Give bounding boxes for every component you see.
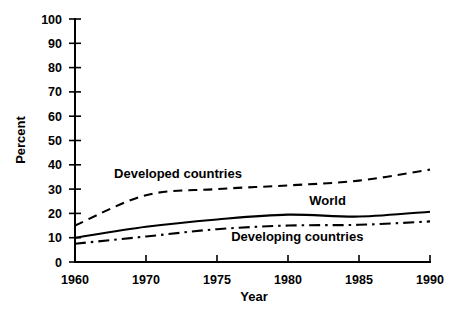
y-axis-title: Percent bbox=[13, 115, 28, 163]
x-tick-label-1960: 1960 bbox=[61, 273, 89, 287]
y-tick-label-0: 0 bbox=[55, 256, 62, 270]
y-tick-label-30: 30 bbox=[48, 183, 62, 197]
y-tick-label-60: 60 bbox=[48, 110, 62, 124]
x-tick-label-1975: 1975 bbox=[203, 273, 231, 287]
y-tick-label-40: 40 bbox=[48, 158, 62, 172]
annotation-world: World bbox=[309, 193, 346, 208]
chart-canvas: 0102030405060708090100 19601970197519801… bbox=[0, 0, 454, 328]
y-tick-label-50: 50 bbox=[48, 134, 62, 148]
x-tick-label-1985: 1985 bbox=[345, 273, 373, 287]
x-axis-title: Year bbox=[240, 289, 267, 304]
y-tick-label-20: 20 bbox=[48, 207, 62, 221]
annotation-developing-countries: Developing countries bbox=[231, 229, 363, 244]
x-tick-label-1970: 1970 bbox=[132, 273, 160, 287]
y-tick-label-10: 10 bbox=[48, 231, 62, 245]
y-axis-tick-labels: 0102030405060708090100 bbox=[41, 13, 62, 270]
y-tick-label-70: 70 bbox=[48, 85, 62, 99]
series-annotations: Developed countriesWorldDeveloping count… bbox=[114, 166, 363, 244]
line-chart: 0102030405060708090100 19601970197519801… bbox=[0, 0, 454, 328]
y-tick-label-80: 80 bbox=[48, 61, 62, 75]
annotation-developed-countries: Developed countries bbox=[114, 166, 242, 181]
x-axis-tick-labels: 196019701975198019851990 bbox=[61, 273, 444, 287]
x-tick-label-1980: 1980 bbox=[274, 273, 302, 287]
y-tick-label-90: 90 bbox=[48, 37, 62, 51]
x-tick-label-1990: 1990 bbox=[416, 273, 444, 287]
y-tick-label-100: 100 bbox=[41, 13, 62, 27]
